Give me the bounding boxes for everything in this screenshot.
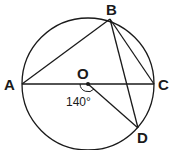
label-a: A: [4, 76, 15, 93]
chord-bd: [110, 19, 138, 128]
label-c: C: [158, 76, 169, 93]
label-b: B: [106, 1, 117, 18]
chord-bc: [110, 19, 154, 84]
radius-od: [88, 84, 138, 128]
angle-label: 140°: [66, 95, 91, 109]
label-o: O: [77, 65, 89, 82]
center-point: [86, 82, 90, 86]
geometry-diagram: A B C D O 140°: [0, 0, 175, 150]
label-d: D: [137, 129, 148, 146]
chord-ab: [22, 19, 110, 84]
